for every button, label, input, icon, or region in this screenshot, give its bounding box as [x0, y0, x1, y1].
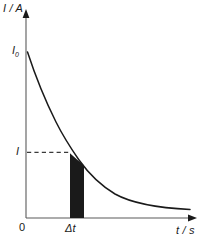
y-axis-arrow-icon	[23, 9, 30, 18]
plot-canvas	[0, 0, 216, 243]
initial-current-label: I0	[12, 44, 19, 58]
delta-t-label: Δt	[65, 222, 75, 234]
initial-current-subscript: 0	[15, 51, 19, 58]
x-axis-arrow-icon	[188, 215, 197, 222]
x-axis-label: t / s	[176, 224, 195, 236]
decay-curve	[28, 52, 191, 210]
origin-label: 0	[19, 221, 25, 233]
current-label: I	[16, 145, 19, 157]
exponential-decay-figure: I / A t / s I0 I 0 Δt	[0, 0, 216, 243]
y-axis-label: I / A	[3, 2, 23, 14]
